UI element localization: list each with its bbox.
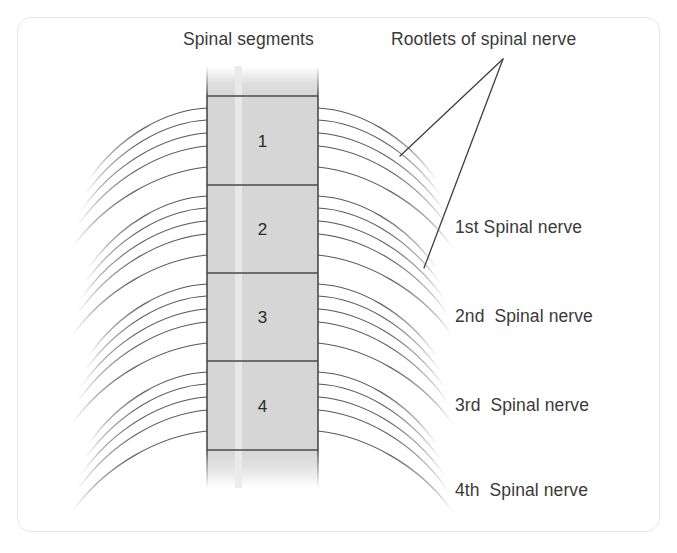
- rootlet-bundle-right-2: [318, 196, 453, 336]
- segment-number-1: 1: [243, 133, 283, 150]
- rootlet-bundle-left-4: [72, 372, 207, 512]
- spinal-cord-column: [206, 66, 319, 488]
- rootlet-bundle-right-3: [318, 284, 453, 424]
- rootlet-bundle-left-2: [72, 196, 207, 336]
- rootlet-bundles-right: [318, 108, 453, 512]
- rootlet-bundle-left-1: [72, 108, 207, 248]
- cord-border-right-fade-top: [317, 66, 319, 96]
- cord-border-left-fade-top: [206, 66, 208, 96]
- title-rootlets-of-spinal-nerve: Rootlets of spinal nerve: [391, 31, 576, 49]
- cord-fade-top: [207, 66, 318, 96]
- spinal-segments-diagram: Spinal segments Rootlets of spinal nerve…: [0, 0, 677, 553]
- rootlet-bundles-left: [72, 108, 207, 512]
- segment-number-3: 3: [243, 309, 283, 326]
- label-3rd-spinal-nerve: 3rd Spinal nerve: [455, 397, 589, 415]
- segment-number-4: 4: [243, 398, 283, 415]
- cord-border-left-fade-bottom: [206, 450, 208, 488]
- cord-midline-stripe: [235, 66, 242, 488]
- cord-fade-bottom: [207, 450, 318, 488]
- rootlets-leader-line-upper: [400, 59, 503, 156]
- rootlet-bundle-right-4: [318, 372, 453, 512]
- cord-border-right-fade-bottom: [317, 450, 319, 488]
- label-1st-spinal-nerve: 1st Spinal nerve: [455, 219, 582, 237]
- rootlet-bundle-right-1: [318, 108, 453, 248]
- label-4th-spinal-nerve: 4th Spinal nerve: [455, 482, 588, 500]
- diagram-canvas: [0, 0, 677, 553]
- label-2nd-spinal-nerve: 2nd Spinal nerve: [455, 308, 593, 326]
- title-spinal-segments: Spinal segments: [183, 31, 314, 49]
- segment-number-2: 2: [243, 221, 283, 238]
- rootlet-bundle-left-3: [72, 284, 207, 424]
